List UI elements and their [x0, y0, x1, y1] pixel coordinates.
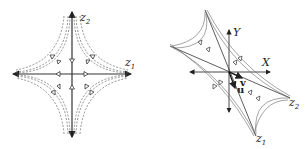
x-axis-label: X [261, 56, 271, 69]
vector-u-label: u [237, 84, 244, 95]
phase-portrait-figure: z2 z1 [0, 0, 306, 149]
left-saddle-diagram: z2 z1 [13, 11, 135, 137]
y-axis-label: Y [233, 26, 242, 39]
right-saddle-diagram: Y X v u z2 z1 [170, 10, 300, 147]
z1-axis-label: z1 [124, 56, 135, 71]
z2-label: z2 [288, 96, 300, 111]
z2-axis-label: z2 [79, 11, 91, 26]
z1-label: z1 [255, 132, 266, 147]
